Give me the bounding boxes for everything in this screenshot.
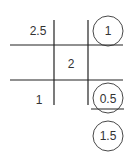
circled-value-2: 0.5: [100, 92, 117, 106]
circled-value-1: 1: [105, 24, 112, 38]
circled-value-3: 1.5: [100, 129, 117, 143]
cell-top-left: 2.5: [30, 24, 47, 38]
grid-diagram: 2.5 2 1 1 0.5 1.5: [0, 0, 136, 162]
cell-middle-center: 2: [68, 57, 75, 71]
cell-bottom-left: 1: [36, 93, 43, 107]
